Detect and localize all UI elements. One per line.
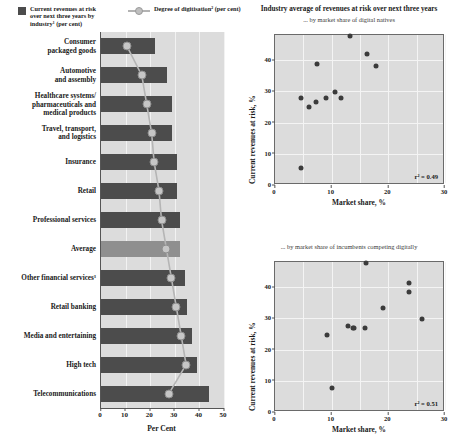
bar-category-label: Consumer packaged goods	[47, 38, 96, 54]
legend: Current revenues at risk over next three…	[18, 2, 258, 32]
scatter-gridline-h	[275, 154, 443, 155]
scatter-panel: Industry average of revenues at risk ove…	[236, 0, 462, 445]
scatter-gridline-v	[445, 262, 446, 410]
scatter-gridline-v	[417, 35, 418, 183]
bar-chart-x-axis-title: Per Cent	[100, 424, 223, 433]
scatter-gridline-v	[303, 35, 304, 183]
scatter-1-subtitle: ... by market share of digital natives	[236, 16, 462, 23]
scatter-y-tick: 20	[258, 118, 271, 125]
bar-x-tick: 50	[220, 411, 227, 419]
bar-segment	[101, 299, 187, 315]
bar-category-label: High tech	[66, 361, 96, 369]
bar-gridline	[224, 32, 225, 408]
scatter-point	[347, 33, 352, 38]
scatter-2-subtitle: ... by market share of incumbents compet…	[236, 243, 462, 250]
bar-category-label: Insurance	[65, 158, 96, 166]
scatter-x-tick: 10	[327, 415, 334, 422]
legend-item-bar: Current revenues at risk over next three…	[18, 5, 128, 27]
scatter-y-tick: 30	[258, 87, 271, 94]
bar-category-label: Automotive and assembly	[55, 67, 96, 83]
scatter-point	[365, 52, 370, 57]
scatter-y-tick: 10	[258, 376, 271, 383]
bar-segment	[101, 212, 180, 228]
scatter-point	[364, 260, 369, 265]
legend-line-label: Degree of digitisation² (per cent)	[154, 5, 241, 12]
scatter-x-tick: 30	[441, 188, 448, 195]
scatter-point	[419, 316, 424, 321]
bar-gridline	[199, 32, 200, 408]
bar-category-label: Telecommunications	[33, 389, 96, 397]
scatter-point	[406, 290, 411, 295]
scatter-gridline-h	[275, 318, 443, 319]
scatter-point	[307, 104, 312, 109]
scatter-y-axis-title: Current revenues at risk, %	[248, 322, 257, 411]
scatter-point	[299, 165, 304, 170]
bar-category-label: Healthcare systems/ pharmaceuticals and …	[32, 92, 96, 117]
scatter-x-tick: 10	[327, 188, 334, 195]
bar-segment	[101, 357, 197, 373]
scatter-y-tick: 0	[258, 408, 271, 415]
bar-x-tick: 30	[170, 411, 177, 419]
bar-x-tick: 0	[98, 411, 102, 419]
scatter-point	[299, 95, 304, 100]
bar-category-label: Media and entertaining	[24, 332, 96, 340]
bar-segment	[101, 38, 155, 54]
scatter-gridline-v	[388, 262, 389, 410]
bar-category-label: Other financial services³	[21, 274, 96, 282]
scatter-point	[333, 90, 338, 95]
scatter-gridline-h	[275, 91, 443, 92]
figure-root: Current revenues at risk over next three…	[0, 0, 462, 445]
bar-chart-plot-area	[100, 32, 224, 408]
scatter-gridline-v	[332, 35, 333, 183]
scatter-point	[339, 95, 344, 100]
scatter-panel-title: Industry average of revenues at risk ove…	[236, 5, 462, 13]
bar-segment	[101, 270, 185, 286]
bar-segment	[101, 96, 172, 112]
bar-category-label: Professional services	[33, 216, 96, 224]
bar-segment	[101, 386, 209, 402]
scatter-y-tick: 0	[258, 181, 271, 188]
scatter-gridline-h	[275, 60, 443, 61]
scatter-point	[380, 305, 385, 310]
scatter-x-tick: 30	[441, 415, 448, 422]
scatter-x-axis-title: Market share, %	[274, 198, 444, 207]
scatter-gridline-h	[275, 381, 443, 382]
scatter-y-tick: 20	[258, 345, 271, 352]
scatter-point	[352, 326, 357, 331]
scatter-plot-area: r² = 0.51	[274, 261, 444, 411]
bar-segment	[101, 125, 172, 141]
bar-chart: Consumer packaged goodsAutomotive and as…	[0, 32, 232, 445]
bar-segment	[101, 183, 177, 199]
bar-category-label: Retail	[78, 187, 96, 195]
scatter-y-tick: 40	[258, 56, 271, 63]
scatter-point	[362, 325, 367, 330]
scatter-chart-digital-natives: r² = 0.490102030400102030Current revenue…	[236, 24, 462, 219]
scatter-point	[406, 280, 411, 285]
scatter-x-tick: 0	[272, 188, 275, 195]
bar-segment	[101, 328, 192, 344]
scatter-x-tick: 20	[384, 415, 391, 422]
scatter-gridline-v	[360, 262, 361, 410]
scatter-gridline-v	[417, 262, 418, 410]
scatter-plot-area: r² = 0.49	[274, 34, 444, 184]
scatter-chart-incumbents: r² = 0.510102030400102030Current revenue…	[236, 251, 462, 445]
scatter-y-tick: 40	[258, 283, 271, 290]
bar-segment	[101, 154, 177, 170]
bar-category-label: Travel, transport, and logistics	[42, 125, 96, 141]
scatter-point	[373, 64, 378, 69]
scatter-point	[314, 62, 319, 67]
scatter-y-tick: 30	[258, 314, 271, 321]
scatter-point	[325, 332, 330, 337]
scatter-y-tick: 10	[258, 149, 271, 156]
line-marker-icon	[128, 6, 150, 16]
r-squared-annotation: r² = 0.49	[415, 173, 439, 180]
bar-x-tick: 10	[121, 411, 128, 419]
r-squared-annotation: r² = 0.51	[415, 400, 439, 407]
scatter-y-axis-title: Current revenues at risk, %	[248, 95, 257, 184]
scatter-gridline-v	[388, 35, 389, 183]
scatter-x-tick: 20	[384, 188, 391, 195]
scatter-point	[329, 385, 334, 390]
bar-category-label: Retail banking	[51, 303, 96, 311]
scatter-gridline-h	[275, 287, 443, 288]
scatter-gridline-h	[275, 123, 443, 124]
